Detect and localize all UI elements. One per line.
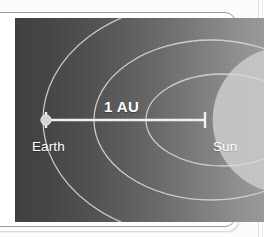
astronomy-diagram-panel [15,18,264,222]
earth-label: Earth [32,139,65,154]
panel-paper-texture [15,18,264,222]
figure-screenshot: 1 AU Earth Sun [0,0,264,237]
sun-label: Sun [213,139,237,154]
au-distance-label: 1 AU [104,98,139,115]
